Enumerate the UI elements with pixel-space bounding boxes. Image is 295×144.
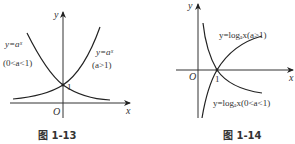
- figure-exponential: y x O 1 y=aˣ (0<a<1) y=aˣ (a>1) 图 1-13: [3, 9, 131, 141]
- figure-logarithm: y x O 1 y=logₐx(a>1) y=logₐx(0<a<1) 图 1-…: [176, 0, 294, 141]
- curve-cond-exp-gt-1: (a>1): [92, 60, 112, 70]
- figure-caption: 图 1-13: [38, 130, 77, 141]
- curve-label-exp-lt-1: y=aˣ: [4, 39, 23, 49]
- x-axis-label: x: [288, 72, 294, 83]
- y-axis-label: y: [53, 9, 59, 20]
- point-label: 1: [215, 74, 220, 84]
- curve-label-log-lt-1: y=logₐx(0<a<1): [213, 98, 270, 108]
- intersection-point: [216, 69, 219, 72]
- y-axis-label: y: [187, 0, 193, 11]
- diagram-canvas: y x O 1 y=aˣ (0<a<1) y=aˣ (a>1) 图 1-13 y…: [0, 0, 295, 144]
- curve-cond-exp-lt-1: (0<a<1): [3, 58, 32, 68]
- origin-label: O: [189, 71, 196, 82]
- origin-label: O: [53, 106, 60, 117]
- curve-label-exp-gt-1: y=aˣ: [95, 47, 114, 57]
- x-axis-label: x: [125, 105, 131, 116]
- point-label: 1: [67, 82, 72, 92]
- intersection-point: [62, 84, 65, 87]
- figure-caption: 图 1-14: [223, 130, 262, 141]
- curve-label-log-gt-1: y=logₐx(a>1): [219, 30, 267, 40]
